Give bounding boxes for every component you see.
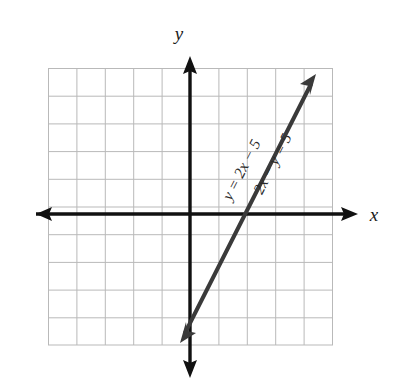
y-axis-label: y [173,23,184,44]
figure-background [0,0,399,389]
graph-figure: y x y = 2x − 5 2x − y = 5 [0,0,399,389]
coordinate-plane-svg: y x y = 2x − 5 2x − y = 5 [0,0,399,389]
x-axis-label: x [369,204,379,225]
